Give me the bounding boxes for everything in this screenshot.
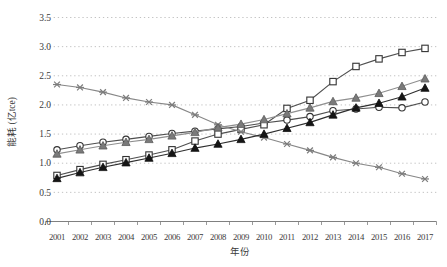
circle-marker: [422, 99, 428, 105]
chart-plot-area: 0.00.51.01.52.02.53.03.52001200220032004…: [0, 0, 447, 267]
square-marker: [399, 49, 405, 55]
x-tick-label: 2007: [187, 232, 204, 242]
x-tick-label: 2016: [394, 232, 411, 242]
square-marker: [353, 63, 359, 69]
x-tick-label: 2009: [233, 232, 249, 242]
x-tick-label: 2012: [302, 232, 318, 242]
x-tick-label: 2008: [210, 232, 227, 242]
triangle-marker: [398, 93, 406, 101]
x-tick-label: 2013: [325, 232, 341, 242]
x-tick-label: 2001: [49, 232, 65, 242]
circle-marker: [284, 117, 290, 123]
x-tick-label: 2003: [95, 232, 111, 242]
y-tick-label: 2.0: [39, 100, 51, 110]
x-tick-label: 2017: [417, 232, 434, 242]
square-marker: [422, 45, 428, 51]
square-marker: [330, 78, 336, 84]
x-tick-label: 2005: [141, 232, 157, 242]
square-marker: [307, 97, 313, 103]
y-tick-label: 3.0: [39, 42, 51, 52]
line-chart-figure: 0.00.51.01.52.02.53.03.52001200220032004…: [0, 0, 447, 267]
y-tick-label: 3.5: [39, 13, 51, 23]
y-tick-label: 2.5: [39, 71, 51, 81]
x-tick-label: 2010: [256, 232, 273, 242]
square-marker: [376, 56, 382, 62]
open-square-series-line: [57, 48, 425, 175]
y-tick-label: 0.5: [39, 188, 51, 198]
x-tick-label: 2011: [279, 232, 295, 242]
y-tick-label: 1.5: [39, 129, 51, 139]
x-tick-label: 2006: [164, 232, 181, 242]
square-marker: [215, 131, 221, 137]
y-axis-title: 能耗 (亿tce): [4, 97, 18, 147]
circle-marker: [399, 105, 405, 111]
triangle-marker: [421, 84, 429, 92]
x-tick-label: 2015: [371, 232, 387, 242]
black-triangle-series-line: [57, 88, 425, 178]
y-tick-label: 1.0: [39, 158, 51, 168]
y-tick-label: 0.0: [39, 217, 51, 227]
x-axis-title: 年份: [230, 244, 250, 258]
x-tick-label: 2014: [348, 232, 365, 242]
x-tick-label: 2004: [118, 232, 135, 242]
x-tick-label: 2002: [72, 232, 88, 242]
